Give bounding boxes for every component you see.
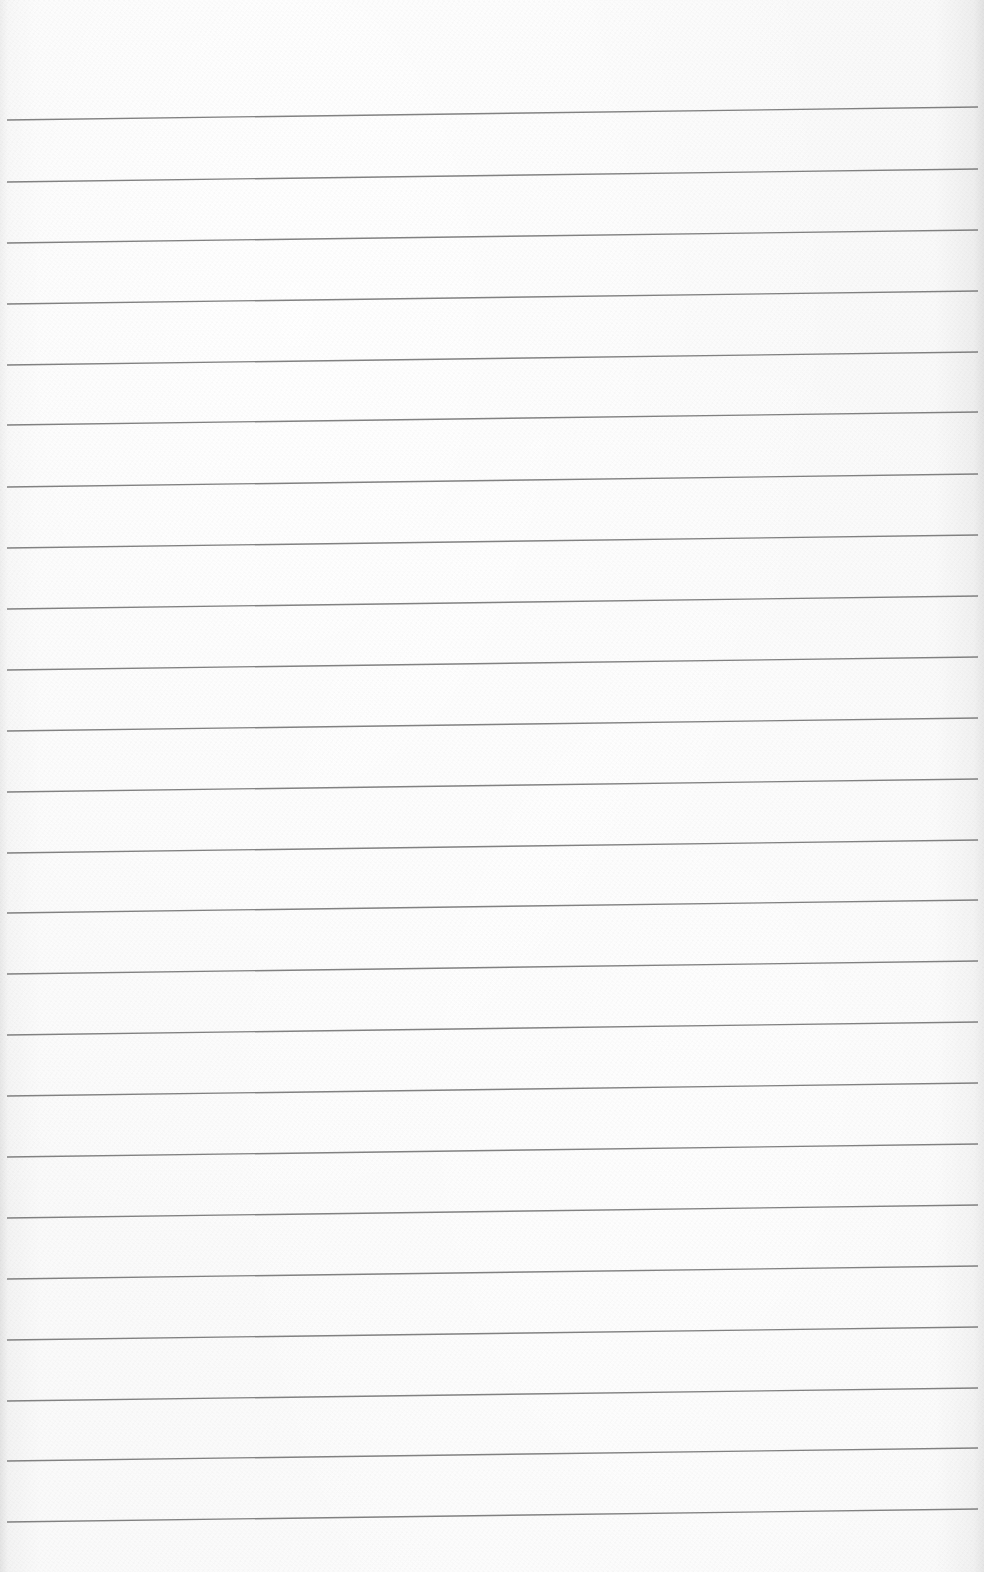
ruled-line (7, 412, 978, 425)
ruled-line (7, 535, 978, 548)
ruled-line (7, 779, 978, 792)
ruled-line (7, 1144, 978, 1157)
ruled-line (7, 718, 978, 731)
ruled-line (7, 961, 978, 974)
ruled-line (7, 1327, 978, 1340)
ruled-line (7, 1509, 978, 1522)
ruled-line (7, 840, 978, 853)
lined-paper-sheet (0, 0, 984, 1572)
ruled-line (7, 1022, 978, 1035)
ruled-line (7, 596, 978, 609)
ruled-line (7, 900, 978, 913)
ruled-line (7, 657, 978, 670)
ruled-line (7, 1266, 978, 1279)
ruled-line (7, 230, 978, 243)
ruled-line (7, 1205, 978, 1218)
ruled-line (7, 169, 978, 182)
ruled-line (7, 1448, 978, 1461)
ruled-line (7, 1388, 978, 1401)
ruled-lines (0, 0, 984, 1572)
ruled-line (7, 1083, 978, 1096)
ruled-line (7, 474, 978, 487)
ruled-line (7, 107, 978, 120)
ruled-line (7, 291, 978, 304)
ruled-line (7, 352, 978, 365)
